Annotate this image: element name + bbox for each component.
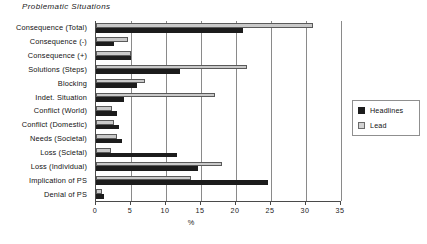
x-axis-title: % xyxy=(0,218,427,227)
x-tick-mark xyxy=(340,201,341,205)
chart-legend: HeadlinesLead xyxy=(352,100,420,136)
bar-group xyxy=(96,104,341,118)
category-label: Implication of PS xyxy=(0,173,92,187)
legend-swatch-lead xyxy=(358,122,365,129)
bar-headlines xyxy=(96,56,131,61)
bar-headlines xyxy=(96,69,180,74)
category-label: Solutions (Steps) xyxy=(0,63,92,77)
bar-headlines xyxy=(96,180,268,185)
x-tick-mark xyxy=(95,201,96,205)
bar-headlines xyxy=(96,125,119,130)
gridline xyxy=(341,21,342,201)
category-label: Denial of PS xyxy=(0,187,92,201)
category-label: Consequence (-) xyxy=(0,35,92,49)
x-tick-label: 25 xyxy=(265,206,274,215)
x-tick-label: 10 xyxy=(160,206,169,215)
bar-group xyxy=(96,63,341,77)
x-tick-mark xyxy=(130,201,131,205)
x-tick-mark xyxy=(165,201,166,205)
bar-group xyxy=(96,90,341,104)
x-tick-mark xyxy=(270,201,271,205)
bar-headlines xyxy=(96,28,243,33)
x-tick-label: 5 xyxy=(128,206,133,215)
bar-headlines xyxy=(96,153,177,158)
category-label: Blocking xyxy=(0,76,92,90)
bar-group xyxy=(96,76,341,90)
x-axis-title-label: % xyxy=(188,218,195,227)
bar-headlines xyxy=(96,97,124,102)
legend-item: Lead xyxy=(358,121,415,130)
bar-headlines xyxy=(96,42,114,47)
x-tick-label: 0 xyxy=(93,206,98,215)
x-tick-label: 15 xyxy=(195,206,204,215)
legend-swatch-headlines xyxy=(358,107,365,114)
bar-chart: Problematic Situations Consequence (Tota… xyxy=(0,0,427,244)
category-axis: Consequence (Total)Consequence (-)Conseq… xyxy=(0,21,92,201)
category-label: Consequence (+) xyxy=(0,49,92,63)
legend-label: Lead xyxy=(370,121,387,130)
bar-group xyxy=(96,35,341,49)
category-label: Consequence (Total) xyxy=(0,21,92,35)
x-tick-label: 30 xyxy=(300,206,309,215)
bar-group xyxy=(96,132,341,146)
bar-group xyxy=(96,118,341,132)
legend-label: Headlines xyxy=(370,106,403,115)
bar-group xyxy=(96,21,341,35)
x-tick-mark xyxy=(200,201,201,205)
legend-item: Headlines xyxy=(358,106,415,115)
bar-group xyxy=(96,187,341,201)
category-label: Loss (Individual) xyxy=(0,159,92,173)
x-tick-mark xyxy=(235,201,236,205)
x-tick-label: 20 xyxy=(230,206,239,215)
bar-group xyxy=(96,159,341,173)
plot-area xyxy=(95,21,341,202)
category-label: Conflict (World) xyxy=(0,104,92,118)
bar-headlines xyxy=(96,166,198,171)
bars-layer xyxy=(96,21,341,201)
category-label: Needs (Societal) xyxy=(0,132,92,146)
bar-headlines xyxy=(96,139,122,144)
x-tick-mark xyxy=(305,201,306,205)
bar-group xyxy=(96,146,341,160)
bar-group xyxy=(96,49,341,63)
category-label: Indet. Situation xyxy=(0,90,92,104)
bar-headlines xyxy=(96,83,137,88)
bar-group xyxy=(96,173,341,187)
chart-title: Problematic Situations xyxy=(22,2,110,11)
category-label: Conflict (Domestic) xyxy=(0,118,92,132)
bar-headlines xyxy=(96,194,104,199)
x-tick-label: 35 xyxy=(335,206,344,215)
bar-headlines xyxy=(96,111,117,116)
category-label: Loss (Scietal) xyxy=(0,146,92,160)
